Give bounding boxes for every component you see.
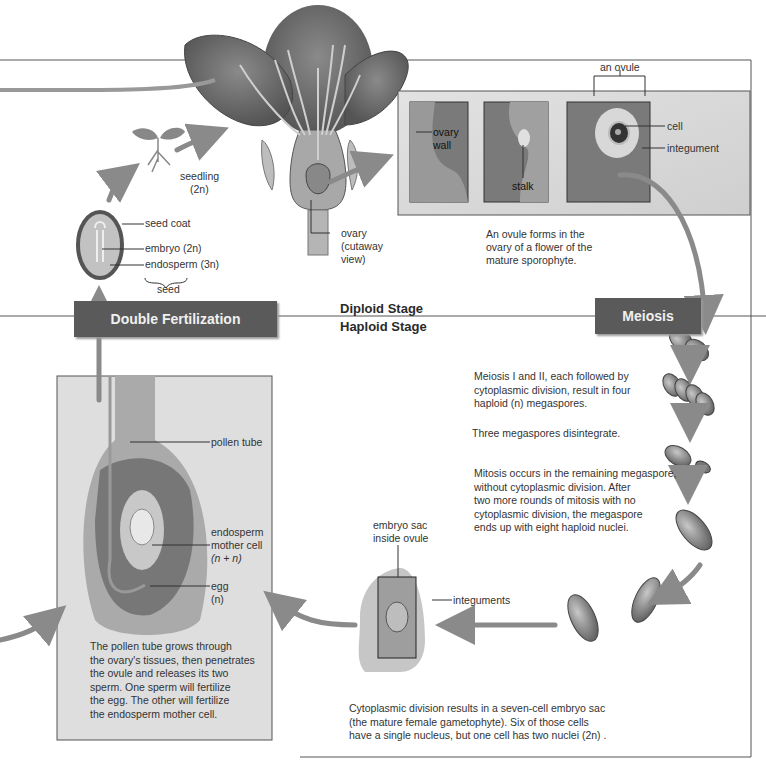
diploid-stage-label: Diploid Stage [340, 301, 423, 316]
seed-label: seed [157, 283, 180, 296]
embryo-sac-label: embryo sac [373, 519, 427, 532]
an-ovule-label: an ovule [600, 61, 640, 74]
meiosis-paragraph-3: Mitosis occurs in the remaining megaspor… [474, 467, 677, 535]
embryo-sac-illustration [359, 568, 425, 672]
embryo-sac-caption: Cytoplasmic division results in a seven-… [349, 702, 606, 743]
endosperm-mother-cell-label-2: mother cell [211, 539, 262, 552]
egg-ploidy-label: (n) [211, 593, 224, 606]
ovule-caption-1: An ovule forms in the [486, 228, 585, 241]
stalk-label: stalk [512, 180, 534, 193]
meiosis-banner: Meiosis [595, 298, 701, 334]
cell-label: cell [667, 120, 683, 133]
meiosis-label: Meiosis [622, 308, 673, 324]
meiosis-paragraph-2: Three megaspores disintegrate. [472, 427, 620, 441]
flower-illustration [0, 5, 408, 255]
integuments-label: integuments [453, 594, 510, 607]
ovule-caption-2: ovary of a flower of the [486, 241, 592, 254]
meiosis-paragraph-1: Meiosis I and II, each followed by cytop… [474, 370, 630, 411]
seed-illustration [78, 212, 122, 278]
pollen-tube-caption: The pollen tube grows through the ovary'… [90, 640, 255, 721]
ovary-wall-label-2: wall [433, 139, 451, 152]
embryo-sac-label-2: inside ovule [373, 532, 428, 545]
double-fertilization-label: Double Fertilization [111, 311, 241, 327]
double-fertilization-banner: Double Fertilization [74, 301, 277, 337]
integument-label: integument [667, 142, 719, 155]
pollen-tube-label: pollen tube [211, 436, 262, 449]
haploid-stage-label: Haploid Stage [340, 319, 427, 334]
egg-label: egg [211, 580, 229, 593]
seed-coat-label: seed coat [145, 217, 191, 230]
seedling-label: seedling [180, 170, 219, 183]
ovary-wall-label: ovary [433, 126, 459, 139]
ovule-caption-3: mature sporophyte. [486, 254, 576, 267]
embryo-label: embryo (2n) [145, 242, 202, 255]
endosperm-ploidy-label: (n + n) [211, 552, 242, 565]
ovary-label: ovary [341, 227, 367, 240]
endosperm-label: endosperm (3n) [145, 258, 219, 271]
endosperm-mother-cell-label: endosperm [211, 526, 264, 539]
seedling-ploidy: (2n) [190, 183, 209, 196]
ovary-label-view: view) [341, 253, 366, 266]
ovary-label-cutaway: (cutaway [341, 240, 383, 253]
